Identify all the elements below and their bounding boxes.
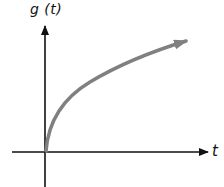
y-axis-label: g (t) bbox=[30, 1, 62, 17]
x-axis-label: t bbox=[212, 142, 218, 160]
curve-g-of-t bbox=[46, 41, 186, 151]
graph-canvas bbox=[0, 0, 224, 187]
